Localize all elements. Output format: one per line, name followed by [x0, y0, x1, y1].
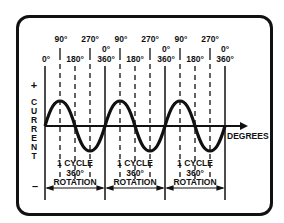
- y-axis-plus: +: [31, 79, 37, 91]
- degree-label-0: 0°: [102, 44, 111, 54]
- degree-label-270: 270°: [141, 34, 159, 44]
- svg-text:1 CYCLE: 1 CYCLE: [57, 158, 93, 168]
- degree-label-0: 0°: [221, 44, 230, 54]
- svg-text:1 CYCLE: 1 CYCLE: [177, 158, 213, 168]
- degree-label-180: 180°: [126, 54, 144, 64]
- y-axis-minus: –: [32, 180, 38, 192]
- svg-text:ROTATION: ROTATION: [173, 177, 216, 187]
- degree-label-360: 360°: [216, 54, 234, 64]
- degree-label-180: 180°: [66, 54, 84, 64]
- x-axis-label: DEGREES: [227, 131, 269, 141]
- diagram-labels: 0° 90° 180° 270° 0° 360° 90° 180° 270° 0…: [0, 0, 284, 223]
- degree-label-90: 90°: [55, 34, 68, 44]
- degree-label-360: 360°: [157, 54, 175, 64]
- degree-label-360: 360°: [97, 54, 115, 64]
- degree-label-270: 270°: [81, 34, 99, 44]
- svg-text:ROTATION: ROTATION: [53, 177, 96, 187]
- degree-label-90: 90°: [115, 34, 128, 44]
- degree-label-0: 0°: [162, 44, 171, 54]
- svg-text:ROTATION: ROTATION: [113, 177, 156, 187]
- svg-text:T: T: [31, 151, 37, 161]
- svg-text:1 CYCLE: 1 CYCLE: [117, 158, 153, 168]
- degree-label-270: 270°: [201, 34, 219, 44]
- degree-label-180: 180°: [186, 54, 204, 64]
- cycle-label-3: 1 CYCLE 360° ROTATION: [173, 158, 216, 187]
- sine-wave-diagram: 0° 90° 180° 270° 0° 360° 90° 180° 270° 0…: [0, 0, 284, 223]
- cycle-label-2: 1 CYCLE 360° ROTATION: [113, 158, 156, 187]
- y-axis-label: C U R R E N T: [31, 97, 37, 161]
- cycle-label-1: 1 CYCLE 360° ROTATION: [53, 158, 96, 187]
- degree-label-90: 90°: [175, 34, 188, 44]
- degree-label-0: 0°: [42, 54, 51, 64]
